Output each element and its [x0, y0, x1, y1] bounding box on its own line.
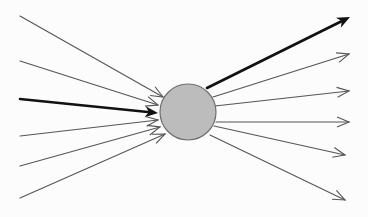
incoming-arrows: [20, 16, 165, 198]
fan-diagram: [0, 0, 368, 217]
arrow-shaft: [20, 127, 160, 166]
outgoing-arrow-1: [207, 17, 350, 88]
central-node: [160, 84, 216, 140]
outgoing-arrow-4: [216, 117, 349, 127]
incoming-arrow-6: [20, 134, 165, 198]
outgoing-arrows: [207, 17, 350, 200]
incoming-arrow-3: [20, 99, 158, 117]
arrow-shaft: [20, 99, 150, 112]
diagram-canvas: [0, 0, 368, 217]
arrow-shaft: [20, 134, 165, 198]
arrow-shaft: [210, 135, 345, 200]
arrow-shaft: [214, 126, 345, 155]
incoming-arrow-2: [20, 61, 158, 106]
incoming-arrow-1: [20, 16, 163, 97]
outgoing-arrow-6: [210, 135, 345, 200]
arrow-shaft: [20, 16, 163, 97]
outgoing-arrow-5: [214, 126, 345, 157]
arrow-shaft: [215, 91, 349, 106]
